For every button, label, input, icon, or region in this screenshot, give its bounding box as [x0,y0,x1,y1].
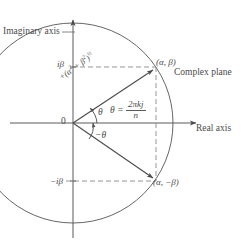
equation-numerator: 2πkj [126,100,146,110]
imaginary-axis-label: Imaginary axis [3,27,60,37]
equation-fraction: 2πkj n [126,100,146,121]
point-label-lower: (α, −β) [153,178,179,187]
tick-label-negative-imaginary: −iβ [50,177,63,186]
equation-equals-sign: = [118,105,123,115]
tick-label-positive-imaginary: iβ [57,60,64,69]
angle-arc-theta [90,108,97,123]
origin-label: 0 [61,117,66,127]
vector-to-lower-point [73,123,153,178]
complex-plane-figure: Imaginary axis Real axis Complex plane i… [0,0,242,245]
point-label-upper: (α, β) [156,58,176,67]
angle-label-theta: θ [98,108,103,118]
equation-denominator: n [132,111,141,121]
equation-lhs-theta: θ [110,106,115,116]
angle-label-negative-theta: −θ [95,131,106,141]
theta-equation: θ = 2πkj n [110,100,146,121]
real-axis-label: Real axis [196,124,231,134]
complex-plane-label: Complex plane [174,68,232,78]
